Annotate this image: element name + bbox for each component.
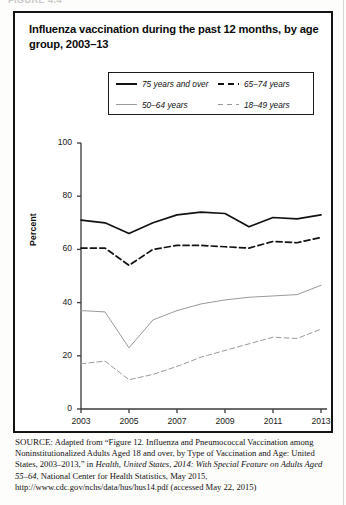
cropped-page-header: FIGURE 4.4 bbox=[8, 0, 158, 9]
source-prefix: SOURCE: bbox=[15, 437, 53, 447]
series-line bbox=[81, 237, 321, 265]
source-note: SOURCE: Adapted from “Figure 12. Influen… bbox=[15, 437, 335, 493]
page-edge-rule bbox=[343, 0, 344, 505]
line-chart-canvas bbox=[15, 13, 331, 431]
source-text-part2: , National Center for Health Statistics,… bbox=[15, 471, 256, 492]
series-line bbox=[81, 212, 321, 233]
cropped-header-text: FIGURE 4.4 bbox=[8, 0, 158, 5]
series-line bbox=[81, 285, 321, 348]
plot-area: Percent 020406080100 2003200520072009201… bbox=[15, 13, 331, 431]
figure-frame: Influenza vaccination during the past 12… bbox=[13, 11, 333, 433]
series-line bbox=[81, 329, 321, 380]
figure-page: FIGURE 4.4 Influenza vaccination during … bbox=[0, 0, 346, 505]
